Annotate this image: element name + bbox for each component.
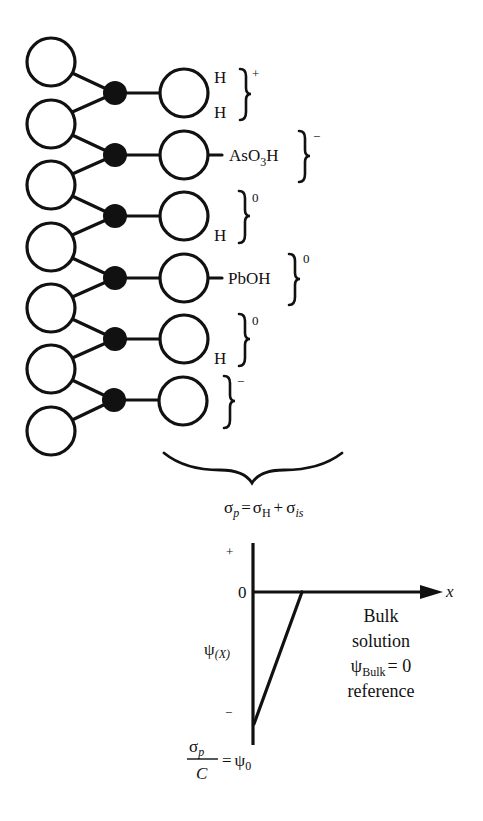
x-axis-label: x bbox=[445, 582, 454, 601]
potential-plot: + 0 − x ψ(X) Bulk solution ψBulk= 0 refe… bbox=[187, 543, 454, 783]
lattice-circle bbox=[27, 345, 75, 393]
ligand-label: H bbox=[214, 349, 226, 368]
surface-circle bbox=[160, 131, 208, 179]
reference-label: reference bbox=[348, 681, 415, 701]
metal-node bbox=[103, 204, 127, 228]
brace-right-icon bbox=[224, 376, 235, 428]
brace-right-icon bbox=[289, 254, 300, 305]
lattice-circle bbox=[27, 161, 75, 209]
charge-label: − bbox=[237, 374, 244, 389]
lattice-circle bbox=[27, 407, 75, 455]
surface-charge-diagram: H H + AsO3H − H 0 PbOH 0 H 0 − σp=σH+σis… bbox=[0, 0, 483, 821]
surface-circle bbox=[160, 69, 208, 117]
metal-node bbox=[103, 266, 127, 290]
substituent-labels: H H + AsO3H − H 0 PbOH 0 H 0 − bbox=[214, 66, 320, 389]
metal-node bbox=[103, 327, 127, 351]
y-axis-minus-label: − bbox=[225, 705, 232, 720]
x-axis-arrowhead-icon bbox=[420, 585, 443, 599]
lattice-oxygen-circles bbox=[27, 38, 75, 455]
metal-nodes bbox=[102, 81, 127, 412]
y-axis-zero-label: 0 bbox=[238, 583, 247, 602]
charge-label: − bbox=[313, 129, 320, 144]
ligand-label: H bbox=[214, 103, 226, 122]
charge-label: + bbox=[252, 66, 259, 81]
bond-lines bbox=[70, 72, 222, 421]
brace-right-icon bbox=[239, 314, 250, 366]
fraction-numerator: σp bbox=[189, 737, 204, 759]
metal-node bbox=[102, 388, 126, 412]
brace-right-icon bbox=[239, 191, 250, 243]
horizontal-brace-icon bbox=[164, 453, 342, 483]
surface-potential-label: =ψ0 bbox=[222, 751, 251, 773]
lattice-circle bbox=[27, 100, 75, 148]
surface-circle bbox=[160, 192, 208, 240]
metal-node bbox=[103, 81, 127, 105]
surface-circle bbox=[160, 254, 208, 302]
brace-right-icon bbox=[240, 69, 251, 120]
surface-circle bbox=[159, 377, 207, 425]
surface-potential-expression: σp C =ψ0 bbox=[187, 737, 251, 783]
bulk-label: Bulk bbox=[363, 606, 398, 626]
lattice-circle bbox=[27, 223, 75, 271]
ligand-label: H bbox=[214, 226, 226, 245]
solution-label: solution bbox=[352, 631, 410, 651]
surface-oxygen-circles bbox=[159, 69, 208, 425]
brace-right-icon bbox=[299, 131, 310, 182]
bulk-potential-label: ψBulk= 0 bbox=[351, 656, 411, 679]
fraction-denominator: C bbox=[196, 764, 208, 783]
metal-node bbox=[103, 143, 127, 167]
charge-label: 0 bbox=[252, 190, 259, 205]
lattice-circle bbox=[27, 38, 75, 86]
charge-label: 0 bbox=[252, 313, 259, 328]
charge-balance-equation: σp=σH+σis bbox=[224, 498, 304, 520]
y-axis-label: ψ(X) bbox=[204, 640, 230, 661]
ligand-label: H bbox=[214, 68, 226, 87]
y-axis-plus-label: + bbox=[226, 544, 233, 559]
surface-circle bbox=[160, 315, 208, 363]
lattice-circle bbox=[27, 284, 75, 332]
lead-hydroxide-label: PbOH bbox=[228, 269, 271, 288]
arsenate-label: AsO3H bbox=[229, 146, 278, 169]
bulk-annotation: Bulk solution ψBulk= 0 reference bbox=[348, 606, 415, 701]
potential-profile-line bbox=[254, 592, 302, 724]
charge-label: 0 bbox=[303, 251, 310, 266]
